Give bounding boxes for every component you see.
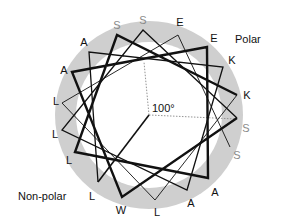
residue-label-6: S [139, 15, 146, 26]
residue-label-13: S [113, 20, 120, 31]
residue-label-2: A [80, 37, 87, 48]
residue-label-1: L [89, 191, 95, 202]
residue-label-17: E [176, 17, 183, 28]
residue-label-18: S [233, 150, 240, 161]
residue-label-14: K [243, 90, 250, 101]
residue-label-9: A [60, 65, 67, 76]
residue-label-5: L [52, 129, 58, 140]
residue-label-12: L [66, 155, 72, 166]
residue-label-16: L [53, 96, 59, 107]
angle-label: 100° [152, 102, 175, 114]
nonpolar-label: Non-polar [18, 190, 66, 202]
residue-label-11: A [211, 187, 218, 198]
residue-label-3: K [228, 55, 235, 66]
residue-label-8: W [116, 205, 126, 216]
polar-label: Polar [235, 33, 261, 45]
residue-label-7: S [242, 123, 249, 134]
residue-label-15: L [154, 207, 160, 218]
residue-label-4: A [187, 198, 194, 209]
residue-label-10: E [210, 33, 217, 44]
